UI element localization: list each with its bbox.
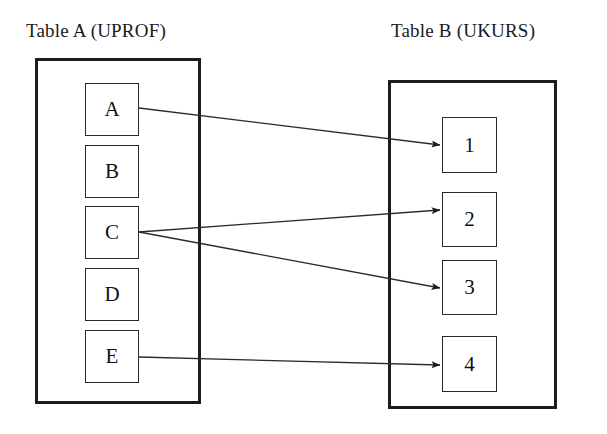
table-b-item-4[interactable]: 4 [442,336,497,392]
table-b-item-3[interactable]: 3 [442,260,497,315]
table-a-title: Table A (UPROF) [26,20,166,42]
table-a-item-e[interactable]: E [85,330,139,383]
table-a-item-d[interactable]: D [85,268,139,321]
table-b-title: Table B (UKURS) [391,20,535,42]
table-b-item-2[interactable]: 2 [442,192,497,247]
table-a-item-b[interactable]: B [85,145,139,198]
table-a-item-a[interactable]: A [85,83,139,136]
table-b-item-1[interactable]: 1 [442,117,497,173]
diagram-canvas: Table A (UPROF) Table B (UKURS) A B C D … [0,0,607,434]
table-a-item-c[interactable]: C [85,206,139,259]
